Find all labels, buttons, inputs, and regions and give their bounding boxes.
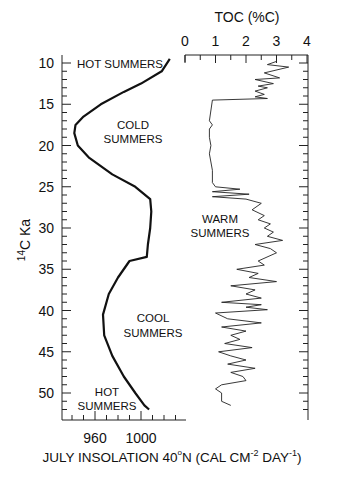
annotation-cool-line2: SUMMERS [124, 327, 183, 339]
y-tick-label: 50 [38, 385, 54, 401]
insolation-toc-chart: TOC (%C) 01234 101520253035404550 14C Ka… [0, 0, 345, 479]
toc-tick-label: 2 [242, 33, 250, 49]
y-axis-label: 14C Ka [16, 219, 33, 261]
annotation-hot-summers-top: HOT SUMMERS [77, 58, 163, 70]
annotation-cool-line1: COOL [137, 312, 170, 324]
toc-tick-labels: 01234 [181, 33, 311, 49]
y-tick-label: 25 [38, 179, 54, 195]
insolation-curve [74, 59, 170, 410]
annotation-cold-line2: SUMMERS [104, 133, 163, 145]
x-tick-label: 960 [83, 430, 107, 446]
toc-tick-label: 0 [181, 33, 189, 49]
y-tick-label: 10 [38, 55, 54, 71]
x-axis-label: JULY INSOLATION 40oN (CAL CM-2 DAY-1) [42, 448, 301, 465]
annotation-warm-line2: SUMMERS [191, 227, 250, 239]
annotation-cold-line1: COLD [117, 119, 149, 131]
y-tick-label: 15 [38, 96, 54, 112]
y-tick-label: 30 [38, 220, 54, 236]
toc-tick-label: 1 [212, 33, 220, 49]
x-tick-label: 1000 [125, 430, 156, 446]
annotation-hot-bottom-line2: SUMMERS [78, 400, 137, 412]
y-tick-label: 45 [38, 344, 54, 360]
y-tick-label: 40 [38, 303, 54, 319]
x-tick-labels: 9601000 [83, 430, 156, 446]
y-tick-label: 20 [38, 138, 54, 154]
annotation-hot-bottom-line1: HOT [95, 386, 119, 398]
y-tick-labels: 101520253035404550 [38, 55, 54, 401]
toc-tick-label: 4 [303, 33, 311, 49]
toc-axis-title: TOC (%C) [214, 9, 279, 25]
annotation-warm-line1: WARM [202, 213, 238, 225]
toc-tick-label: 3 [273, 33, 281, 49]
y-tick-label: 35 [38, 261, 54, 277]
